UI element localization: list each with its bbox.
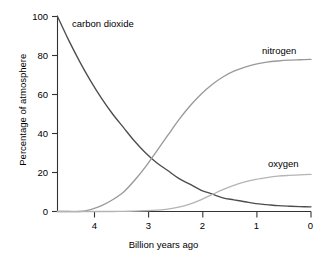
series-label-carbon-dioxide: carbon dioxide [72,19,134,29]
series-label-oxygen: oxygen [268,159,299,169]
x-tick-label-4: 4 [82,221,107,231]
y-tick-label-100: 100 [22,12,48,22]
y-tick-label-0: 0 [22,207,48,217]
x-axis-title: Billion years ago [0,240,327,250]
x-axis-ticks [95,212,312,218]
atmosphere-composition-chart: 0 20 40 60 80 100 4 3 2 1 0 Percentage o… [0,0,327,259]
series-label-nitrogen: nitrogen [262,46,296,56]
x-tick-label-3: 3 [136,221,161,231]
x-tick-label-2: 2 [190,221,215,231]
x-tick-label-0: 0 [298,221,323,231]
series-line-oxygen [58,174,312,211]
y-axis-title: Percentage of atmosphere [18,30,28,190]
x-tick-label-1: 1 [244,221,269,231]
series-line-nitrogen [58,59,312,211]
chart-plot-area [0,0,327,259]
y-axis-ticks [52,17,58,212]
